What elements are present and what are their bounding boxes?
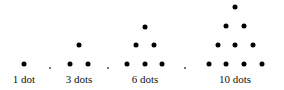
dot — [207, 62, 212, 67]
dot — [143, 25, 148, 30]
comma-separator — [49, 67, 51, 69]
comma-separator — [184, 67, 186, 69]
dot — [224, 62, 229, 67]
label-10-dots: 10 dots — [219, 73, 251, 85]
label-6-dots: 6 dots — [132, 73, 159, 85]
dot — [260, 62, 265, 67]
dot — [134, 43, 139, 48]
dot — [233, 43, 238, 48]
dot — [152, 43, 157, 48]
dot — [216, 43, 221, 48]
dot — [68, 62, 73, 67]
dot — [143, 62, 148, 67]
dot — [22, 62, 27, 67]
dot — [160, 62, 165, 67]
comma-separator — [107, 67, 109, 69]
dot — [233, 5, 238, 10]
dot — [125, 62, 130, 67]
dot — [86, 62, 91, 67]
dot — [251, 43, 256, 48]
dot — [224, 24, 229, 29]
dot — [242, 62, 247, 67]
dot — [77, 43, 82, 48]
label-3-dots: 3 dots — [66, 73, 93, 85]
label-1-dot: 1 dot — [13, 73, 35, 85]
dot — [242, 24, 247, 29]
